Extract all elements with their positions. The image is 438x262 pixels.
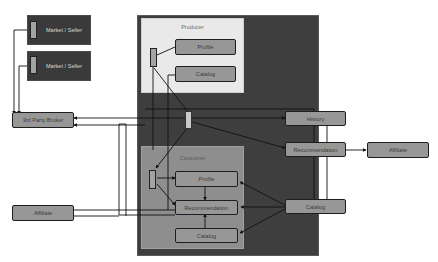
producer-title: Producer <box>142 24 243 30</box>
broker-label: 3rd Party Broker <box>23 117 64 123</box>
central-hub-port <box>185 111 192 129</box>
affiliate-left-node[interactable]: Affiliate <box>12 205 74 221</box>
consumer-profile-label: Profile <box>199 176 215 182</box>
producer-profile-label: Profile <box>198 44 214 50</box>
producer-catalog-label: Catalog <box>196 71 215 77</box>
affiliate-right-node[interactable]: Affiliate <box>367 142 429 158</box>
consumer-title: Consumer <box>142 155 243 161</box>
seller-port-2 <box>30 56 37 74</box>
seller-label-2: Market / Seller <box>46 63 82 69</box>
recommendation-node[interactable]: Recommendation <box>285 142 346 157</box>
history-node[interactable]: History <box>285 111 346 126</box>
recommendation-label: Recommendation <box>294 147 338 153</box>
catalog-node[interactable]: Catalog <box>285 199 346 214</box>
consumer-recommendation-node[interactable]: Recommendation <box>175 200 238 215</box>
affiliate-left-label: Affiliate <box>34 210 52 216</box>
consumer-hub-port <box>149 170 156 189</box>
consumer-catalog-label: Catalog <box>197 233 216 239</box>
producer-profile-node[interactable]: Profile <box>175 39 236 55</box>
third-party-broker-node[interactable]: 3rd Party Broker <box>12 112 74 128</box>
consumer-catalog-node[interactable]: Catalog <box>175 228 238 243</box>
seller-port-1 <box>30 21 37 39</box>
consumer-profile-node[interactable]: Profile <box>175 171 238 187</box>
history-label: History <box>307 116 324 122</box>
affiliate-right-label: Affiliate <box>389 147 407 153</box>
catalog-label: Catalog <box>306 204 325 210</box>
producer-catalog-node[interactable]: Catalog <box>175 66 236 82</box>
producer-hub-port <box>150 48 157 67</box>
consumer-recommendation-label: Recommendation <box>185 205 229 211</box>
seller-label-1: Market / Seller <box>46 27 82 33</box>
